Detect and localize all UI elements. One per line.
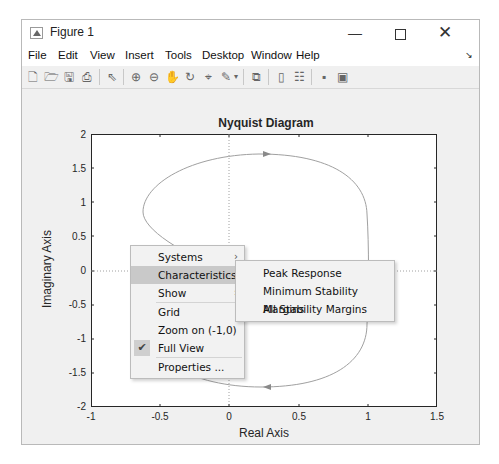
pan-hand-icon[interactable]: ✋ [164, 69, 180, 85]
brush-dropdown-icon[interactable]: ▾ [232, 69, 240, 85]
menu-item-systems[interactable]: Systems › [131, 248, 244, 266]
menu-view[interactable]: View [90, 49, 115, 61]
x-axis-label: Real Axis [214, 426, 314, 440]
y-tick: 0.5 [56, 231, 86, 242]
toolbar-separator [311, 69, 312, 85]
y-tick: -1 [56, 333, 86, 344]
title-bar[interactable]: Figure 1 — ✕ [22, 20, 479, 46]
print-icon[interactable]: ⎙ [79, 69, 95, 85]
matlab-figure-icon [30, 27, 43, 39]
y-axis-label: Imaginary Axis [40, 219, 54, 319]
menu-item-characteristics[interactable]: Characteristics › [131, 266, 244, 284]
legend-icon[interactable]: ☷ [291, 69, 307, 85]
x-tick: 0 [214, 411, 244, 422]
y-tick: 1.5 [56, 163, 86, 174]
zoom-out-icon[interactable]: ⊖ [146, 69, 162, 85]
direction-arrow-icon [263, 384, 271, 390]
toolbar-separator [99, 69, 100, 85]
menu-item-grid[interactable]: Grid [131, 303, 244, 321]
maximize-button[interactable] [383, 20, 417, 46]
checkmark-icon: ✔ [134, 340, 150, 356]
menu-item-show[interactable]: Show › [131, 284, 244, 302]
x-tick: -0.5 [145, 411, 175, 422]
menu-help[interactable]: Help [296, 49, 320, 61]
menu-tools[interactable]: Tools [165, 49, 192, 61]
close-button[interactable]: ✕ [428, 20, 462, 46]
menu-item-zoom-on[interactable]: Zoom on (-1,0) [131, 321, 244, 339]
menu-desktop[interactable]: Desktop [202, 49, 244, 61]
save-icon[interactable]: 🖫 [61, 69, 77, 85]
y-tick: -0.5 [56, 299, 86, 310]
maximize-icon [395, 29, 406, 40]
x-tick: 1 [353, 411, 383, 422]
menu-window[interactable]: Window [251, 49, 292, 61]
toolbar-separator [123, 69, 124, 85]
y-tick: -1.5 [56, 367, 86, 378]
edit-plot-arrow-icon[interactable]: ⇖ [104, 69, 120, 85]
context-menu: Systems › Characteristics › Show › Grid … [130, 245, 245, 379]
dock-arrow-icon[interactable]: ↘ [465, 50, 473, 60]
menu-file[interactable]: File [28, 49, 47, 61]
show-plot-tools-icon[interactable]: ▣ [334, 69, 350, 85]
zoom-in-icon[interactable]: ⊕ [128, 69, 144, 85]
submenu-item-minimum-stability-margins[interactable]: Minimum Stability Margins [236, 282, 394, 300]
open-file-icon[interactable]: 🗁 [43, 69, 59, 85]
menu-insert[interactable]: Insert [125, 49, 154, 61]
window-title: Figure 1 [50, 25, 94, 39]
y-tick: 1 [56, 197, 86, 208]
colorbar-icon[interactable]: ▯ [273, 69, 289, 85]
x-tick: 0.5 [284, 411, 314, 422]
x-tick: 1.5 [422, 411, 452, 422]
submenu-item-peak-response[interactable]: Peak Response [236, 264, 394, 282]
hide-plot-tools-icon[interactable]: ▪ [316, 69, 332, 85]
toolbar-separator [243, 69, 244, 85]
menu-item-full-view[interactable]: ✔ Full View [131, 339, 244, 357]
characteristics-submenu: Peak Response Minimum Stability Margins … [235, 260, 395, 322]
rotate-3d-icon[interactable]: ↻ [182, 69, 198, 85]
plot-title: Nyquist Diagram [191, 116, 341, 130]
menu-bar: File Edit View Insert Tools Desktop Wind… [22, 46, 479, 66]
menu-edit[interactable]: Edit [58, 49, 78, 61]
toolbar: 🗋 🗁 🖫 ⎙ ⇖ ⊕ ⊖ ✋ ↻ ⌖ ✎ ▾ ⧉ ▯ ☷ ▪ ▣ [22, 66, 479, 89]
submenu-item-all-stability-margins[interactable]: All Stability Margins [236, 300, 394, 318]
x-tick: -1 [76, 411, 106, 422]
data-cursor-icon[interactable]: ⌖ [200, 69, 216, 85]
menu-item-properties[interactable]: Properties ... [131, 358, 244, 376]
toolbar-separator [268, 69, 269, 85]
y-tick: 0 [56, 265, 86, 276]
y-tick: 2 [56, 129, 86, 140]
minimize-button[interactable]: — [338, 20, 372, 46]
link-plot-icon[interactable]: ⧉ [248, 69, 264, 85]
new-figure-icon[interactable]: 🗋 [25, 69, 41, 85]
direction-arrow-icon [263, 151, 271, 157]
